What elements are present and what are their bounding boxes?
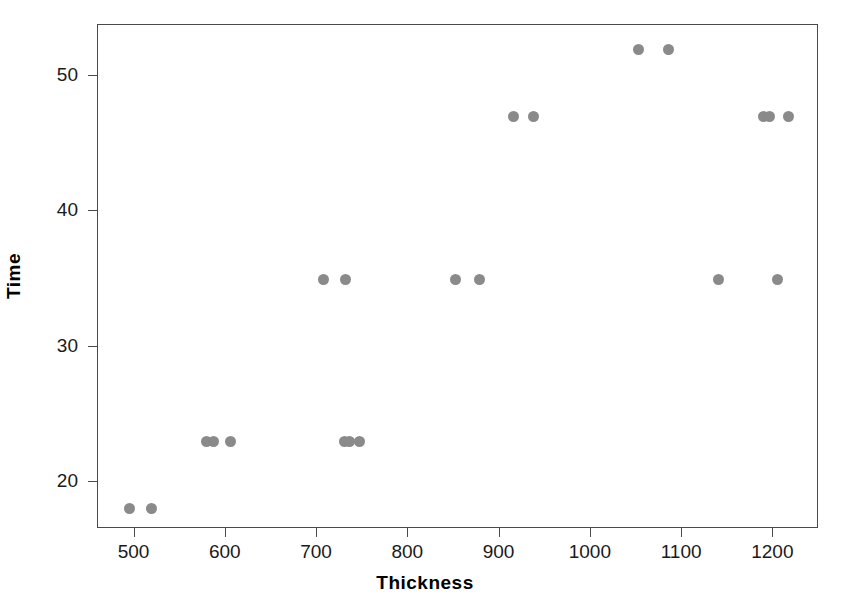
scatter-plot-figure: 20304050 500600700800900100011001200 Tim… bbox=[0, 0, 850, 613]
data-point bbox=[318, 274, 329, 285]
x-tick-label: 600 bbox=[180, 541, 270, 563]
data-point bbox=[772, 274, 783, 285]
x-tick-mark bbox=[134, 528, 135, 537]
x-tick-mark bbox=[407, 528, 408, 537]
data-point bbox=[450, 274, 461, 285]
x-tick-mark bbox=[681, 528, 682, 537]
data-point bbox=[124, 503, 135, 514]
data-point bbox=[783, 111, 794, 122]
x-tick-mark bbox=[225, 528, 226, 537]
x-tick-mark bbox=[772, 528, 773, 537]
data-point bbox=[225, 436, 236, 447]
data-point bbox=[354, 436, 365, 447]
y-tick-label: 30 bbox=[18, 335, 78, 357]
plot-frame bbox=[97, 24, 818, 528]
x-tick-mark bbox=[316, 528, 317, 537]
data-point bbox=[474, 274, 485, 285]
y-tick-label: 40 bbox=[18, 199, 78, 221]
data-point bbox=[713, 274, 724, 285]
x-tick-mark bbox=[499, 528, 500, 537]
x-tick-label: 1000 bbox=[545, 541, 635, 563]
x-tick-label: 1200 bbox=[727, 541, 817, 563]
x-tick-label: 900 bbox=[454, 541, 544, 563]
y-axis-title: Time bbox=[3, 253, 25, 299]
data-point bbox=[633, 44, 644, 55]
data-point bbox=[340, 274, 351, 285]
data-point bbox=[508, 111, 519, 122]
y-tick-mark bbox=[88, 346, 97, 347]
y-tick-mark bbox=[88, 481, 97, 482]
y-tick-label: 50 bbox=[18, 64, 78, 86]
y-tick-mark bbox=[88, 75, 97, 76]
y-tick-label: 20 bbox=[18, 470, 78, 492]
data-point bbox=[528, 111, 539, 122]
y-tick-mark bbox=[88, 210, 97, 211]
data-point bbox=[146, 503, 157, 514]
x-tick-label: 500 bbox=[89, 541, 179, 563]
x-tick-label: 1100 bbox=[636, 541, 726, 563]
x-tick-label: 700 bbox=[271, 541, 361, 563]
x-axis-title: Thickness bbox=[0, 572, 850, 594]
plot-area bbox=[98, 25, 817, 527]
x-tick-mark bbox=[590, 528, 591, 537]
data-point bbox=[764, 111, 775, 122]
x-tick-label: 800 bbox=[362, 541, 452, 563]
data-point bbox=[663, 44, 674, 55]
data-point bbox=[208, 436, 219, 447]
